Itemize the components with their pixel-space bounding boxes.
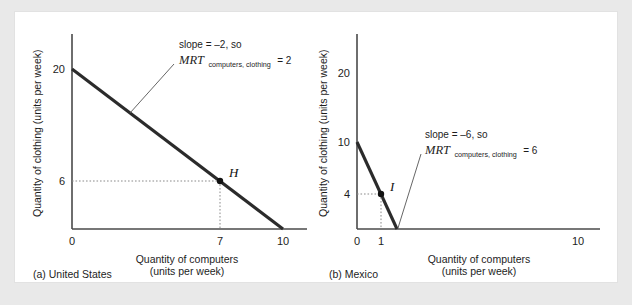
y-tick-label-10: 10 [338, 136, 350, 148]
y-tick-label-6: 6 [59, 175, 65, 187]
y-axis-title: Quantity of clothing (units per week) [31, 50, 43, 218]
figure-frame: H slope = –2, so MRT computers, clothing… [14, 11, 618, 283]
x-tick-label-1: 1 [378, 235, 384, 247]
chart-svg-united-states: H slope = –2, so MRT computers, clothing… [15, 12, 317, 284]
y-tick-label-20: 20 [53, 63, 65, 75]
annotation-mrt-value: = 6 [523, 145, 538, 156]
data-point-i-marker [378, 191, 384, 197]
data-point-i-label: I [389, 179, 395, 194]
annotation-mrt-subscript: computers, clothing [208, 60, 270, 69]
annotation-mrt-symbol: MRT [424, 143, 451, 157]
panel-caption-mexico: (b) Mexico [329, 268, 378, 280]
annotation-slope-text: slope = –2, so [179, 39, 242, 50]
ppf-curve-united-states [72, 69, 283, 229]
x-axis-title-line1: Quantity of computers [136, 253, 239, 265]
annotation-mrt-subscript: computers, clothing [454, 150, 516, 159]
annotation-leader-line [130, 64, 174, 113]
annotation-mrt-group: MRT computers, clothing = 2 [178, 50, 292, 70]
annotation-mrt-group: MRT computers, clothing = 6 [424, 140, 538, 160]
data-point-h-label: H [228, 165, 239, 180]
annotation-slope-text: slope = –6, so [425, 129, 488, 140]
y-tick-label-4: 4 [344, 188, 350, 200]
y-axis-title: Quantity of clothing (units per week) [317, 50, 329, 218]
annotation-leader-line [398, 154, 421, 228]
x-tick-label-7: 7 [217, 235, 223, 247]
y-tick-label-20: 20 [338, 67, 350, 79]
annotation-mrt-symbol: MRT [178, 53, 205, 67]
annotation-mrt-value: = 2 [277, 55, 292, 66]
x-tick-label-0: 0 [354, 235, 360, 247]
x-axis-title-line2: (units per week) [150, 265, 225, 277]
data-point-h-marker [217, 178, 223, 184]
panel-caption-united-states: (a) United States [33, 268, 112, 280]
x-tick-label-0: 0 [69, 235, 75, 247]
x-tick-label-10: 10 [277, 235, 289, 247]
chart-panel-united-states: H slope = –2, so MRT computers, clothing… [15, 12, 317, 284]
chart-panel-mexico: I slope = –6, so MRT computers, clothing… [317, 12, 619, 284]
x-axis-title-line1: Quantity of computers [428, 253, 531, 265]
chart-svg-mexico: I slope = –6, so MRT computers, clothing… [317, 12, 619, 284]
x-axis-title-line2: (units per week) [442, 265, 517, 277]
x-tick-label-10: 10 [572, 235, 584, 247]
